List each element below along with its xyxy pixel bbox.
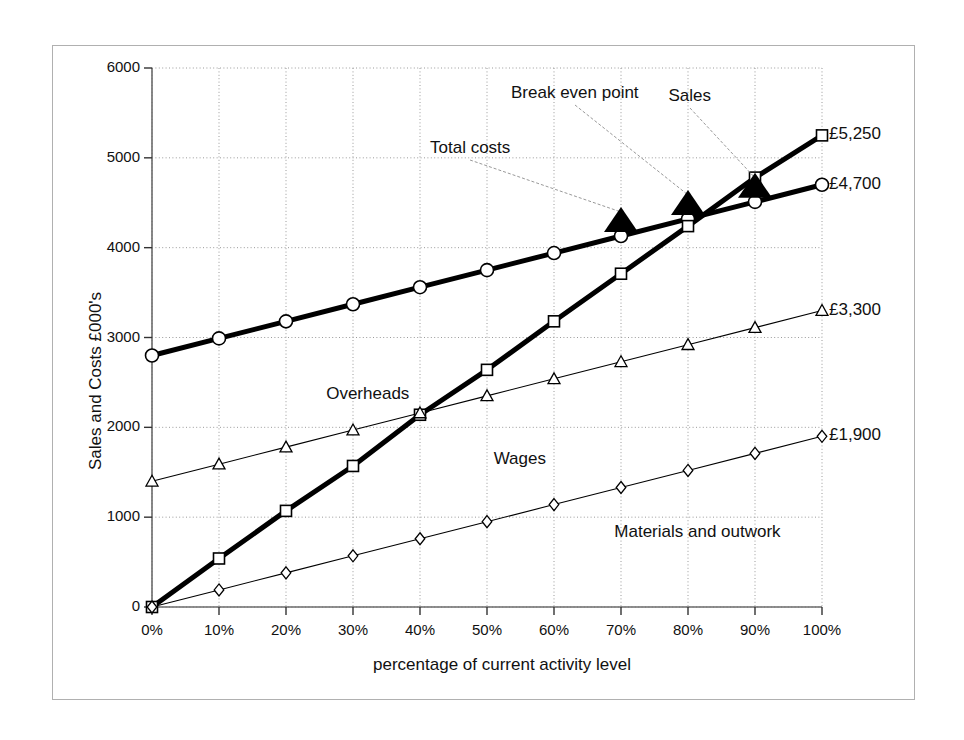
x-axis-tick-label: 30%: [325, 621, 381, 638]
data-point-3-2: [281, 567, 291, 579]
data-point-1-1: [214, 553, 225, 564]
y-axis-tick-label: 2000: [52, 417, 140, 434]
data-point-0-4: [414, 281, 427, 294]
x-axis-tick-label: 50%: [459, 621, 515, 638]
data-point-0-0: [146, 349, 159, 362]
data-point-1-3: [348, 460, 359, 471]
annotation-leader-total-costs: [470, 160, 621, 212]
data-point-1-5: [482, 364, 493, 375]
annotation-arrowhead-break-even: [671, 190, 705, 215]
y-axis-tick-label: 6000: [52, 58, 140, 75]
annotation-label-break-even: Break even point: [511, 83, 639, 103]
annotation-leader-break-even: [575, 105, 688, 195]
data-point-3-4: [415, 533, 425, 545]
x-axis-tick-label: 40%: [392, 621, 448, 638]
data-point-1-2: [281, 505, 292, 516]
end-value-label-materials: £1,900: [829, 425, 881, 445]
data-point-0-1: [213, 332, 226, 345]
x-axis-tick-label: 100%: [794, 621, 850, 638]
data-point-3-10: [817, 430, 827, 442]
data-point-3-3: [348, 550, 358, 562]
data-point-0-10: [816, 178, 829, 191]
x-axis-tick-label: 60%: [526, 621, 582, 638]
x-axis-tick-label: 20%: [258, 621, 314, 638]
end-value-label-overheads: £3,300: [829, 300, 881, 320]
y-axis-tick-label: 3000: [52, 328, 140, 345]
y-axis-tick-label: 1000: [52, 507, 140, 524]
inline-series-label-2: Materials and outwork: [614, 522, 780, 542]
x-axis-tick-label: 90%: [727, 621, 783, 638]
x-axis-title: percentage of current activity level: [352, 655, 652, 675]
data-point-3-8: [683, 464, 693, 476]
data-point-3-9: [750, 447, 760, 459]
data-point-1-7: [616, 268, 627, 279]
data-point-0-6: [548, 247, 561, 260]
x-axis-tick-label: 0%: [124, 621, 180, 638]
data-point-3-5: [482, 516, 492, 528]
inline-series-label-1: Wages: [494, 449, 546, 469]
x-axis-tick-label: 80%: [660, 621, 716, 638]
data-point-3-1: [214, 584, 224, 596]
annotation-leader-sales: [690, 108, 755, 178]
end-value-label-total_costs: £5,250: [829, 124, 881, 144]
end-value-label-sales: £4,700: [829, 174, 881, 194]
x-axis-tick-label: 70%: [593, 621, 649, 638]
y-axis-tick-label: 4000: [52, 238, 140, 255]
data-point-0-5: [481, 264, 494, 277]
data-point-1-6: [549, 316, 560, 327]
chart-page: Sales and Costs £000's percentage of cur…: [0, 0, 964, 740]
y-axis-tick-label: 0: [52, 597, 140, 614]
data-point-0-2: [280, 315, 293, 328]
data-point-0-3: [347, 298, 360, 311]
data-point-3-6: [549, 499, 559, 511]
annotation-arrowhead-total-costs: [604, 207, 638, 232]
data-point-1-8: [683, 221, 694, 232]
inline-series-label-0: Overheads: [326, 384, 409, 404]
x-axis-tick-label: 10%: [191, 621, 247, 638]
annotation-label-total-costs: Total costs: [430, 138, 510, 158]
data-point-3-7: [616, 482, 626, 494]
data-point-1-10: [817, 130, 828, 141]
annotation-label-sales: Sales: [669, 86, 712, 106]
y-axis-title: Sales and Costs £000's: [86, 292, 106, 470]
data-point-2-10: [816, 305, 828, 316]
y-axis-tick-label: 5000: [52, 148, 140, 165]
